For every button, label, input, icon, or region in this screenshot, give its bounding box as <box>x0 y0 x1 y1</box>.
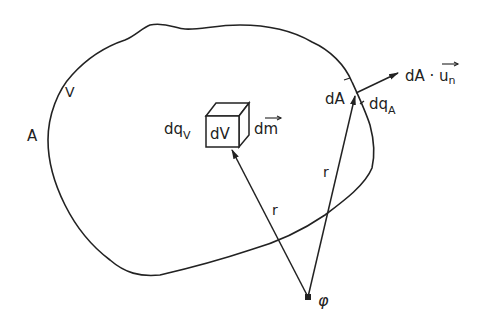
area-element-tick-upper <box>344 78 350 80</box>
label-volume-charge: dqV <box>164 120 191 142</box>
boundary-surface <box>48 24 374 275</box>
label-distance-volume: r <box>272 202 278 218</box>
label-area-element: dA <box>325 90 346 108</box>
label-mass-element: dm <box>254 116 281 138</box>
diagram-canvas: A V dqV dV dm dA dqA dA · un r r φ <box>0 0 489 326</box>
label-distance-surface: r <box>323 164 329 180</box>
normal-vector-arrow <box>356 73 398 93</box>
label-normal-vector: dA · un <box>405 62 458 87</box>
label-surface-charge: dqA <box>369 95 396 117</box>
label-potential-phi: φ <box>318 291 329 310</box>
label-volume-element: dV <box>210 125 231 143</box>
svg-text:dm: dm <box>254 120 278 138</box>
label-volume-V: V <box>65 84 75 100</box>
svg-text:dA · un: dA · un <box>405 67 456 87</box>
radius-vector-to-volume <box>232 150 308 297</box>
potential-point-dot <box>305 294 311 300</box>
label-surface-A: A <box>27 127 38 145</box>
